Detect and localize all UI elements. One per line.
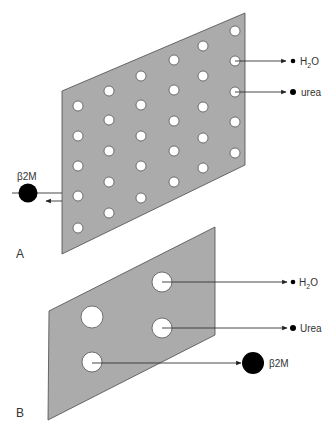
flow-urea: urea (235, 87, 321, 98)
pore (104, 208, 114, 218)
pore (73, 161, 83, 171)
panel-label-a: A (16, 247, 24, 261)
pore (230, 117, 240, 127)
solute-label: Urea (300, 323, 322, 334)
pore (230, 26, 240, 36)
panel-label-b: B (16, 406, 24, 420)
solute-flows-a: H2Ourea (235, 56, 321, 98)
b2m-molecule (19, 184, 38, 203)
panel-b: H2OUreaβ2M B (16, 227, 322, 420)
pore (169, 55, 179, 65)
pore (73, 131, 83, 141)
pore (169, 116, 179, 126)
pore (198, 133, 208, 143)
membrane-small-pores (62, 13, 245, 254)
pore (136, 193, 146, 203)
solute-dot (290, 325, 296, 331)
solute-label: H2O (300, 56, 319, 69)
blocked-solute-b2m: β2M (12, 171, 62, 203)
solute-label: urea (301, 87, 321, 98)
pore (198, 163, 208, 173)
pore (73, 101, 83, 111)
pore (169, 177, 179, 187)
pore (104, 146, 114, 156)
panel-a: H2Ourea β2M A (12, 13, 321, 261)
pore (198, 71, 208, 81)
solute-label: H2O (299, 277, 318, 290)
pore (136, 161, 146, 171)
pore (198, 41, 208, 51)
pore (169, 85, 179, 95)
pore (169, 146, 179, 156)
pore (136, 131, 146, 141)
solute-label: β2M (269, 358, 289, 369)
pore (73, 191, 83, 201)
solute-dot (290, 89, 296, 95)
solute-dot (291, 280, 296, 285)
solute-dot (291, 59, 296, 64)
pore (104, 86, 114, 96)
pore (104, 115, 114, 125)
b2m-label: β2M (17, 171, 37, 182)
pore (136, 71, 146, 81)
pore (73, 223, 83, 233)
pore (104, 177, 114, 187)
pore (230, 148, 240, 158)
pore (136, 100, 146, 110)
membrane-large-pores (48, 227, 215, 420)
large-pore (82, 352, 102, 372)
membrane-sieving-diagram: H2Ourea β2M A H2OUreaβ2M B (0, 0, 332, 426)
flow-h2o: H2O (235, 56, 319, 69)
pore (198, 102, 208, 112)
large-pore (81, 306, 103, 328)
b2m-molecule (242, 352, 264, 374)
